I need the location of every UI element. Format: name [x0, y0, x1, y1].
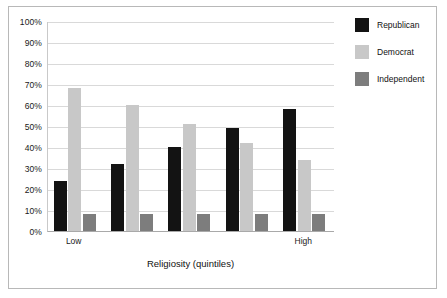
chart-legend: RepublicanDemocratIndependent [355, 18, 441, 99]
bar-group [48, 22, 105, 231]
y-axis-tick-label: 70% [25, 80, 42, 90]
bar-independent-2 [140, 214, 153, 231]
bar-democrat-1 [68, 88, 81, 231]
bar-democrat-4 [240, 143, 253, 231]
bar-republican-3 [168, 147, 181, 231]
bar-group [105, 22, 162, 231]
y-axis-tick-label: 100% [20, 17, 42, 27]
legend-swatch-independent [355, 72, 369, 86]
bar-democrat-2 [126, 105, 139, 231]
x-axis-tick-label: Low [66, 236, 82, 246]
bar-democrat-5 [298, 160, 311, 231]
bar-republican-5 [283, 109, 296, 231]
bar-independent-5 [312, 214, 325, 231]
y-axis-tick-label: 80% [25, 59, 42, 69]
y-axis-tick-label: 20% [25, 185, 42, 195]
bar-republican-4 [226, 128, 239, 231]
bar-republican-1 [54, 181, 67, 231]
bar-democrat-3 [183, 124, 196, 231]
legend-label: Republican [377, 20, 420, 30]
y-axis-tick-label: 40% [25, 143, 42, 153]
plot-area [47, 22, 334, 232]
legend-label: Independent [377, 74, 424, 84]
bar-group [220, 22, 277, 231]
bar-independent-3 [197, 214, 210, 231]
y-axis-tick-label: 10% [25, 206, 42, 216]
legend-swatch-republican [355, 18, 369, 32]
legend-item-republican: Republican [355, 18, 441, 32]
bar-republican-2 [111, 164, 124, 231]
legend-item-independent: Independent [355, 72, 441, 86]
bar-independent-1 [83, 214, 96, 231]
bar-independent-4 [255, 214, 268, 231]
x-axis-tick-label: High [295, 236, 312, 246]
chart-figure: 0%10%20%30%40%50%60%70%80%90%100% LowHig… [0, 0, 447, 298]
y-axis-tick-label: 50% [25, 122, 42, 132]
y-axis-tick-label: 0% [30, 227, 43, 237]
legend-label: Democrat [377, 47, 414, 57]
legend-item-democrat: Democrat [355, 45, 441, 59]
bar-group [163, 22, 220, 231]
x-axis-title: Religiosity (quintiles) [47, 258, 334, 269]
y-axis-tick-label: 60% [25, 101, 42, 111]
legend-swatch-democrat [355, 45, 369, 59]
y-axis-tick-labels: 0%10%20%30%40%50%60%70%80%90%100% [0, 22, 42, 232]
y-axis-tick-label: 30% [25, 164, 42, 174]
bar-group [278, 22, 335, 231]
y-axis-tick-label: 90% [25, 38, 42, 48]
